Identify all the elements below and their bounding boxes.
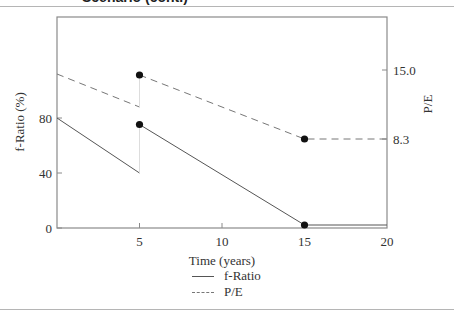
x-axis: 5 10 15 20 Time (years) <box>136 223 393 268</box>
y-axis-label: f-Ratio (%) <box>12 92 27 152</box>
y-tick-80: 80 <box>39 111 52 126</box>
bottom-divider <box>0 309 454 310</box>
pe-marker-15 <box>301 135 308 142</box>
pe-marker-5 <box>136 71 143 78</box>
y2-tick-8-3: 8.3 <box>393 132 409 147</box>
f-ratio-marker-5 <box>136 121 143 128</box>
series-pe <box>57 71 387 142</box>
x-axis-label: Time (years) <box>189 253 255 268</box>
y2-tick-15: 15.0 <box>393 63 416 78</box>
legend-item-f-ratio: f-Ratio <box>192 268 261 284</box>
x-tick-10: 10 <box>216 234 229 249</box>
chart-plot: 0 40 80 f-Ratio (%) 5 10 15 20 Time (yea… <box>0 0 454 311</box>
plot-frame <box>57 17 387 228</box>
f-ratio-marker-15 <box>301 221 308 228</box>
y-tick-0: 0 <box>46 221 53 236</box>
x-tick-5: 5 <box>136 234 143 249</box>
x-tick-20: 20 <box>381 234 394 249</box>
x-tick-15: 15 <box>298 234 311 249</box>
legend-label: f-Ratio <box>224 268 261 284</box>
right-axis: 15.0 8.3 P/E <box>382 63 435 147</box>
series-f-ratio <box>57 118 387 229</box>
legend-label: P/E <box>224 284 243 300</box>
dashed-line-swatch-icon <box>192 292 214 293</box>
y2-axis-label: P/E <box>420 95 435 114</box>
chart-legend: f-Ratio P/E <box>192 268 261 300</box>
solid-line-swatch-icon <box>192 276 214 277</box>
left-axis: 0 40 80 f-Ratio (%) <box>12 92 62 236</box>
legend-item-pe: P/E <box>192 284 261 300</box>
y-tick-40: 40 <box>39 166 52 181</box>
